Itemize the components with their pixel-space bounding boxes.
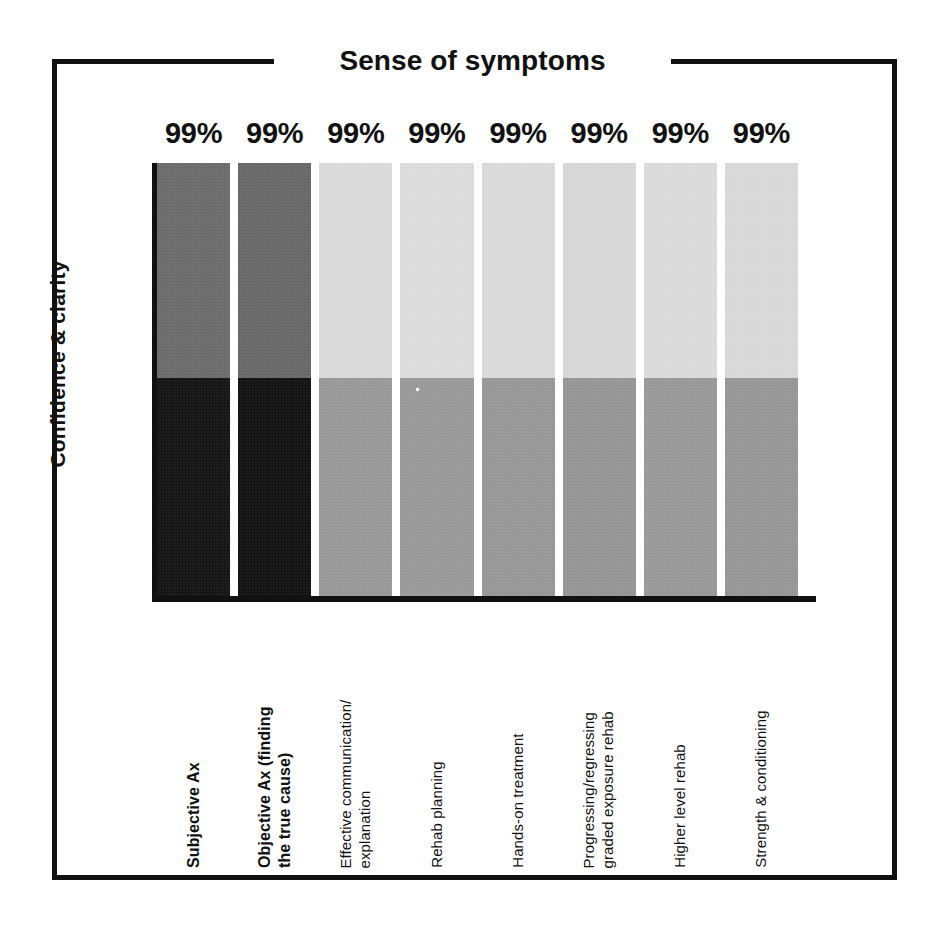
bar[interactable] <box>482 163 555 596</box>
bar-segment-lower <box>725 378 798 596</box>
category-cell: Hands-on treatment <box>482 606 555 868</box>
bar[interactable] <box>238 163 311 596</box>
category-label: Objective Ax (findingthe true cause) <box>255 706 295 868</box>
bar-segment-upper <box>644 163 717 378</box>
category-label: Subjective Ax <box>184 762 204 868</box>
bar-slot <box>482 163 555 596</box>
category-label: Hands-on treatment <box>509 734 528 868</box>
frame-bottom-rule <box>52 875 897 880</box>
bar-segment-lower <box>482 378 555 596</box>
category-label-line: the true cause) <box>275 706 295 868</box>
bar-slot <box>563 163 636 596</box>
y-axis-label: Confidence & clarity <box>46 214 70 514</box>
halftone-texture <box>725 378 798 596</box>
category-label: Higher level rehab <box>671 744 690 868</box>
category-label-line: Effective communication/ <box>337 699 356 868</box>
bar-segment-upper <box>319 163 392 378</box>
bar-segment-lower <box>563 378 636 596</box>
bar-value-label: 99% <box>400 112 473 154</box>
category-label-line: Objective Ax (finding <box>255 706 275 868</box>
category-cell: Subjective Ax <box>157 606 230 868</box>
bar-value-label: 99% <box>563 112 636 154</box>
plot-area <box>157 163 798 596</box>
bar-slot <box>400 163 473 596</box>
halftone-texture <box>157 163 230 378</box>
bar-value-label: 99% <box>725 112 798 154</box>
bar-slot <box>238 163 311 596</box>
bar-segment-upper <box>238 163 311 378</box>
bar[interactable] <box>319 163 392 596</box>
bar-segment-lower <box>400 378 473 596</box>
halftone-texture <box>563 163 636 378</box>
bar-segment-upper <box>563 163 636 378</box>
category-label: Strength & conditioning <box>752 711 771 868</box>
halftone-texture <box>644 378 717 596</box>
x-axis-line <box>152 596 816 602</box>
bar-value-label: 99% <box>482 112 555 154</box>
bar[interactable] <box>725 163 798 596</box>
bar-slot <box>725 163 798 596</box>
bar-segment-upper <box>725 163 798 378</box>
category-cell: Rehab planning <box>400 606 473 868</box>
value-label-row: 99%99%99%99%99%99%99%99% <box>157 112 798 154</box>
category-cell: Objective Ax (findingthe true cause) <box>238 606 311 868</box>
halftone-texture <box>482 378 555 596</box>
category-label-line: Rehab planning <box>428 762 447 869</box>
category-label-line: Subjective Ax <box>184 762 204 868</box>
halftone-texture <box>482 163 555 378</box>
halftone-texture <box>319 378 392 596</box>
bar-value-label: 99% <box>238 112 311 154</box>
category-cell: Progressing/regressinggraded exposure re… <box>563 606 636 868</box>
category-label: Effective communication/explanation <box>337 699 375 868</box>
bar-segment-lower <box>157 378 230 596</box>
frame-top-right-rule <box>671 59 897 64</box>
bar-segment-lower <box>644 378 717 596</box>
halftone-texture <box>644 163 717 378</box>
category-label: Progressing/regressinggraded exposure re… <box>580 711 618 868</box>
category-cell: Strength & conditioning <box>725 606 798 868</box>
bar-value-label: 99% <box>644 112 717 154</box>
frame-right-rule <box>892 59 897 880</box>
bar-slot <box>644 163 717 596</box>
category-label-row: Subjective AxObjective Ax (findingthe tr… <box>157 606 798 868</box>
bar[interactable] <box>157 163 230 596</box>
bar-segment-lower <box>238 378 311 596</box>
bar-value-label: 99% <box>157 112 230 154</box>
category-cell: Higher level rehab <box>644 606 717 868</box>
bar-slot <box>319 163 392 596</box>
category-label-line: Strength & conditioning <box>752 711 771 868</box>
category-label-line: explanation <box>356 699 375 868</box>
category-label: Rehab planning <box>428 762 447 869</box>
halftone-texture <box>157 378 230 596</box>
category-cell: Effective communication/explanation <box>319 606 392 868</box>
chart-figure: Sense of symptoms Confidence & clarity 9… <box>0 0 945 940</box>
category-label-line: Progressing/regressing <box>580 711 599 868</box>
category-label-line: Hands-on treatment <box>509 734 528 868</box>
bar-segment-upper <box>157 163 230 378</box>
bar-segment-upper <box>400 163 473 378</box>
halftone-texture <box>238 163 311 378</box>
bar-value-label: 99% <box>319 112 392 154</box>
halftone-texture <box>563 378 636 596</box>
bar[interactable] <box>563 163 636 596</box>
halftone-texture <box>238 378 311 596</box>
bar-segment-lower <box>319 378 392 596</box>
halftone-texture <box>400 378 473 596</box>
frame-top-left-rule <box>52 59 274 64</box>
halftone-texture <box>319 163 392 378</box>
bar-segment-upper <box>482 163 555 378</box>
bar[interactable] <box>400 163 473 596</box>
category-label-line: Higher level rehab <box>671 744 690 868</box>
category-label-line: graded exposure rehab <box>599 711 618 868</box>
bar[interactable] <box>644 163 717 596</box>
chart-title: Sense of symptoms <box>274 40 671 82</box>
bar-slot <box>157 163 230 596</box>
halftone-texture <box>725 163 798 378</box>
halftone-texture <box>400 163 473 378</box>
